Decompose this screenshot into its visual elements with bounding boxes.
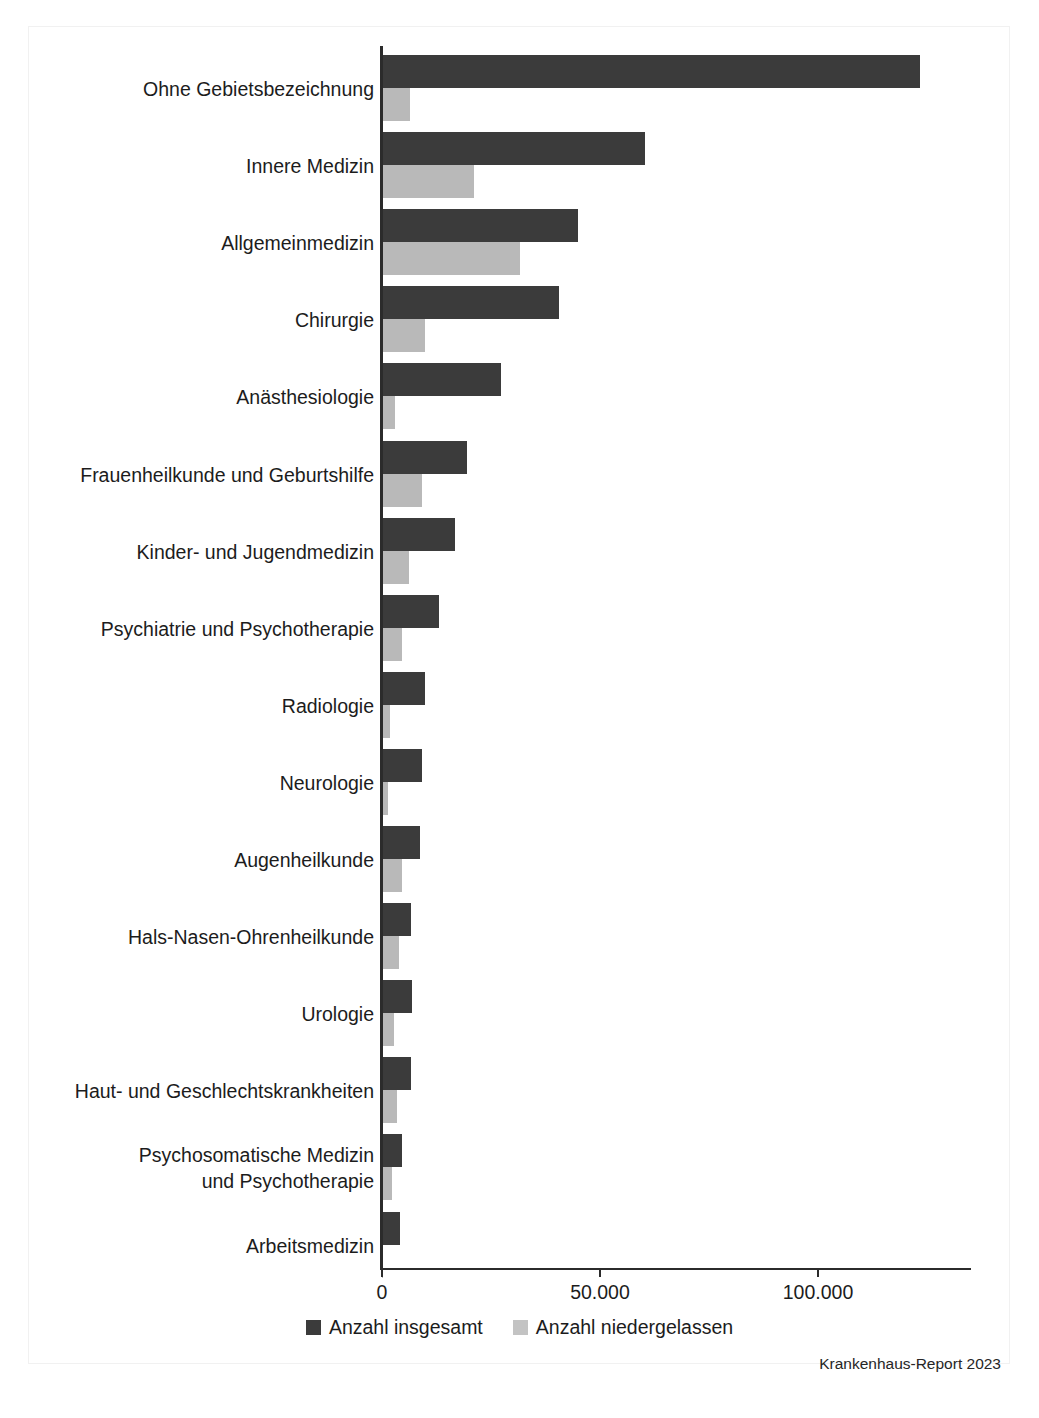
bar-row: Neurologie	[0, 749, 1039, 815]
bar-row: Urologie	[0, 980, 1039, 1046]
bar-total	[382, 441, 467, 474]
bar-resident	[382, 782, 388, 815]
x-tick	[817, 1268, 819, 1277]
category-label: Haut- und Geschlechtskrankheiten	[44, 1078, 374, 1104]
category-label: Allgemeinmedizin	[44, 230, 374, 256]
bar-row: Haut- und Geschlechtskrankheiten	[0, 1057, 1039, 1123]
category-label: Ohne Gebietsbezeichnung	[44, 76, 374, 102]
chart-page: Ohne GebietsbezeichnungInnere MedizinAll…	[0, 0, 1039, 1418]
x-tick-label: 50.000	[570, 1281, 630, 1304]
bar-resident	[382, 165, 474, 198]
bar-resident	[382, 705, 390, 738]
source-note: Krankenhaus-Report 2023	[819, 1355, 1001, 1373]
category-label: Arbeitsmedizin	[44, 1233, 374, 1259]
bar-total	[382, 980, 412, 1013]
bar-total	[382, 595, 439, 628]
legend-item: Anzahl niedergelassen	[513, 1316, 733, 1339]
bar-resident	[382, 936, 399, 969]
bar-total	[382, 1057, 411, 1090]
bar-row: Augenheilkunde	[0, 826, 1039, 892]
bar-row: Psychosomatische Medizin und Psychothera…	[0, 1134, 1039, 1200]
bar-total	[382, 749, 422, 782]
legend-swatch-total	[306, 1320, 321, 1335]
bar-resident	[382, 551, 409, 584]
legend-item: Anzahl insgesamt	[306, 1316, 483, 1339]
bar-row: Allgemeinmedizin	[0, 209, 1039, 275]
category-label: Kinder- und Jugendmedizin	[44, 539, 374, 565]
category-label: Augenheilkunde	[44, 847, 374, 873]
bar-chart-plot: Ohne GebietsbezeichnungInnere MedizinAll…	[0, 0, 1039, 1418]
category-label: Chirurgie	[44, 307, 374, 333]
category-label: Anästhesiologie	[44, 384, 374, 410]
bar-resident	[382, 396, 395, 429]
bar-total	[382, 1212, 400, 1245]
x-tick-label: 0	[377, 1281, 388, 1304]
bar-row: Chirurgie	[0, 286, 1039, 352]
bar-total	[382, 903, 411, 936]
bar-row: Hals-Nasen-Ohrenheilkunde	[0, 903, 1039, 969]
bar-total	[382, 1134, 402, 1167]
bar-resident	[382, 319, 425, 352]
bar-resident	[382, 242, 520, 275]
category-label: Psychiatrie und Psychotherapie	[44, 616, 374, 642]
bar-total	[382, 286, 559, 319]
y-axis-line	[380, 46, 383, 1268]
bar-row: Innere Medizin	[0, 132, 1039, 198]
bar-total	[382, 826, 420, 859]
bar-resident	[382, 859, 402, 892]
bar-resident	[382, 88, 410, 121]
x-axis-line	[380, 1268, 971, 1270]
bar-resident	[382, 1167, 392, 1200]
bar-total	[382, 209, 578, 242]
chart-legend: Anzahl insgesamtAnzahl niedergelassen	[0, 1316, 1039, 1339]
category-label: Psychosomatische Medizin und Psychothera…	[44, 1142, 374, 1194]
bar-resident	[382, 628, 402, 661]
bar-row: Ohne Gebietsbezeichnung	[0, 55, 1039, 121]
bar-total	[382, 672, 425, 705]
x-tick-label: 100.000	[783, 1281, 854, 1304]
bar-total	[382, 518, 455, 551]
x-tick	[599, 1268, 601, 1277]
legend-label: Anzahl niedergelassen	[536, 1316, 733, 1339]
category-label: Neurologie	[44, 770, 374, 796]
bar-row: Psychiatrie und Psychotherapie	[0, 595, 1039, 661]
bar-resident	[382, 1090, 397, 1123]
bar-resident	[382, 1013, 394, 1046]
category-label: Frauenheilkunde und Geburtshilfe	[44, 462, 374, 488]
bar-row: Anästhesiologie	[0, 363, 1039, 429]
legend-swatch-resident	[513, 1320, 528, 1335]
category-label: Innere Medizin	[44, 153, 374, 179]
bar-row: Radiologie	[0, 672, 1039, 738]
bar-total	[382, 55, 920, 88]
bar-row: Kinder- und Jugendmedizin	[0, 518, 1039, 584]
x-tick	[381, 1268, 383, 1277]
category-label: Urologie	[44, 1001, 374, 1027]
bar-row: Frauenheilkunde und Geburtshilfe	[0, 441, 1039, 507]
category-label: Hals-Nasen-Ohrenheilkunde	[44, 924, 374, 950]
bar-resident	[382, 474, 422, 507]
bar-total	[382, 363, 501, 396]
category-label: Radiologie	[44, 693, 374, 719]
legend-label: Anzahl insgesamt	[329, 1316, 483, 1339]
bar-total	[382, 132, 645, 165]
